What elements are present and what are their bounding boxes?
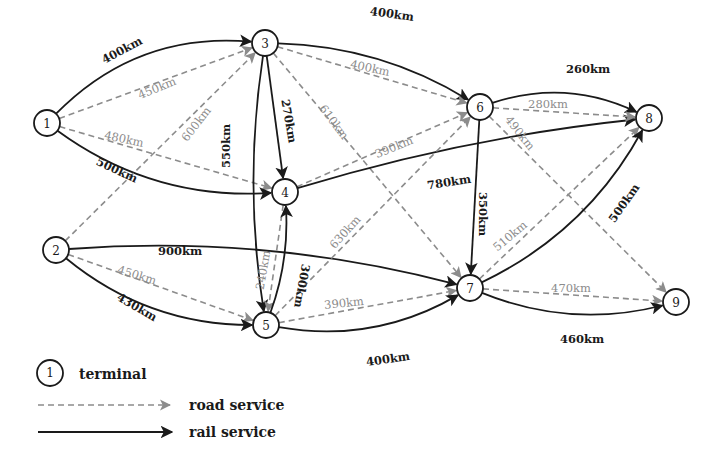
- road-edge-6-9: [489, 116, 666, 292]
- road-edge-1-4: [60, 127, 272, 189]
- terminal-number: 9: [672, 296, 680, 310]
- rail-edge-7-9: [482, 293, 662, 315]
- road-distance-label: 390km: [373, 133, 415, 161]
- terminal-number: 5: [262, 319, 270, 333]
- terminal-node-4: 4: [272, 179, 298, 205]
- rail-edge-2-5: [66, 258, 252, 325]
- legend-road: road service: [38, 397, 285, 413]
- rail-distance-label: 400km: [369, 4, 415, 24]
- terminal-number: 8: [645, 112, 653, 126]
- transport-network-diagram: 400km450km480km500km600km900km450km430km…: [0, 0, 722, 468]
- terminal-number: 6: [476, 101, 484, 115]
- road-distance-label: 390km: [323, 294, 364, 312]
- road-distance-label: 610km: [316, 102, 351, 142]
- rail-distance-label: 400km: [99, 33, 145, 66]
- road-distance-label: 450km: [136, 74, 178, 102]
- terminal-node-7: 7: [457, 275, 483, 301]
- rail-distance-label: 350km: [476, 192, 490, 236]
- terminal-node-8: 8: [636, 105, 662, 131]
- terminal-number: 4: [281, 186, 289, 200]
- rail-edge-3-4: [267, 56, 283, 178]
- terminal-node-1: 1: [34, 110, 60, 136]
- terminal-node-2: 2: [43, 237, 69, 263]
- rail-distance-label: 270km: [278, 98, 299, 144]
- road-distance-label: 630km: [326, 212, 363, 251]
- rail-distance-label: 780km: [426, 172, 472, 193]
- legend-rail: rail service: [38, 424, 276, 440]
- road-distance-label: 480km: [103, 128, 145, 150]
- rail-distance-label: 460km: [560, 332, 604, 346]
- road-distance-label: 450km: [116, 262, 158, 287]
- rail-distance-label: 430km: [114, 290, 159, 324]
- terminal-node-9: 9: [663, 289, 689, 315]
- terminal-number: 3: [261, 37, 269, 51]
- road-distance-label: 240km: [253, 249, 274, 291]
- rail-distance-label: 260km: [566, 62, 610, 76]
- terminal-number: 2: [52, 244, 60, 258]
- rail-edge-1-3: [56, 41, 251, 114]
- rail-distance-label: 550km: [219, 124, 233, 168]
- terminal-number: 1: [43, 117, 51, 131]
- legend-terminal-label: terminal: [79, 366, 146, 382]
- terminal-node-6: 6: [467, 94, 493, 120]
- rail-edge-5-4: [270, 206, 286, 313]
- rail-distance-label: 500km: [94, 154, 140, 185]
- legend-road-label: road service: [189, 397, 285, 413]
- legend: 1 terminal road service rail service: [37, 360, 285, 440]
- road-distance-label: 280km: [528, 97, 568, 111]
- terminal-number: 7: [466, 282, 474, 296]
- terminal-node-3: 3: [252, 30, 278, 56]
- road-distance-label: 600km: [178, 104, 214, 144]
- rail-distance-label: 900km: [158, 244, 202, 258]
- rail-edge-1-4: [58, 131, 272, 194]
- legend-terminal: 1 terminal: [37, 360, 146, 386]
- legend-terminal-symbol: 1: [46, 366, 54, 380]
- road-edge-3-7: [273, 53, 461, 277]
- legend-rail-label: rail service: [189, 424, 276, 440]
- terminal-node-5: 5: [253, 312, 279, 338]
- rail-distance-label: 500km: [606, 181, 643, 225]
- rail-distance-label: 300km: [291, 263, 312, 309]
- rail-distance-label: 400km: [365, 349, 411, 369]
- road-distance-label: 470km: [551, 281, 591, 295]
